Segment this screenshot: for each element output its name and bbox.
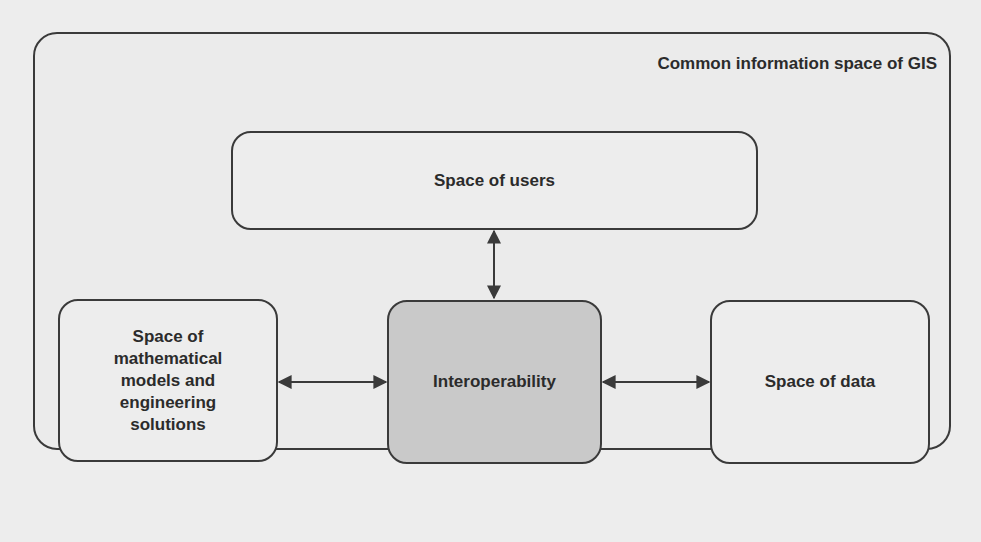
diagram-canvas: Common information space of GIS Space of… — [0, 0, 981, 542]
container-title: Common information space of GIS — [657, 54, 937, 74]
node-space-of-data: Space of data — [710, 300, 930, 464]
node-label: Interoperability — [433, 371, 556, 393]
node-label: Space of users — [434, 170, 555, 192]
node-space-of-models: Space of mathematical models and enginee… — [58, 299, 278, 462]
node-label: Space of data — [765, 371, 876, 393]
node-label: Space of mathematical models and enginee… — [114, 326, 223, 436]
node-interoperability: Interoperability — [387, 300, 602, 464]
node-space-of-users: Space of users — [231, 131, 758, 230]
